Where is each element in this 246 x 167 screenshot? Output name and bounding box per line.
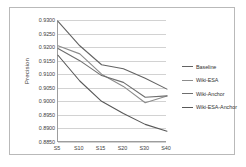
y-tick-label: 0.9000 [24,98,55,104]
y-tick-label: 0.9300 [24,17,55,23]
y-tick-label: 0.9050 [24,85,55,91]
x-tick-label: S10 [74,144,83,152]
y-tick-label: 0.8900 [24,125,55,131]
y-tick-label: 0.8850 [24,139,55,145]
x-tick-label: S5 [54,144,61,152]
legend-item-label: Baseline [196,64,216,70]
grid-line [58,142,166,143]
legend-item[interactable]: Baseline [182,60,244,74]
series-line [58,48,167,97]
chart-frame: Precision 0.93000.92500.92000.91500.9100… [9,7,235,155]
legend-item-label: Wiki-ESA-Anchor [196,104,237,110]
x-tick-label: S20 [118,144,127,152]
x-tick-label: S30 [139,144,148,152]
y-tick-label: 0.9100 [24,71,55,77]
plot-area [57,20,166,142]
y-axis-tick-labels: 0.93000.92500.92000.91500.91000.90500.90… [24,20,55,142]
x-tick-label: S40 [161,144,170,152]
legend-item[interactable]: Wiki-ESA [182,74,244,88]
legend-item[interactable]: Wiki-ESA-Anchor [182,101,244,115]
legend-line-icon [182,93,193,94]
x-axis-tick-labels: S5S10S15S20S30S40 [57,144,166,156]
chart-screenshot: Precision 0.93000.92500.92000.91500.9100… [0,0,246,167]
y-tick-label: 0.8950 [24,112,55,118]
legend-line-icon [182,80,193,81]
y-tick-label: 0.9200 [24,44,55,50]
y-tick-label: 0.9150 [24,58,55,64]
legend-item-label: Wiki-ESA [196,77,218,83]
series-lines [58,20,167,142]
x-tick-label: S15 [96,144,105,152]
legend-line-icon [182,66,193,67]
legend-item[interactable]: Wiki-Anchor [182,87,244,101]
legend-item-label: Wiki-Anchor [196,91,225,97]
legend-line-icon [182,107,193,108]
chart-legend: BaselineWiki-ESAWiki-AnchorWiki-ESA-Anch… [182,60,244,114]
y-tick-label: 0.9250 [24,31,55,37]
